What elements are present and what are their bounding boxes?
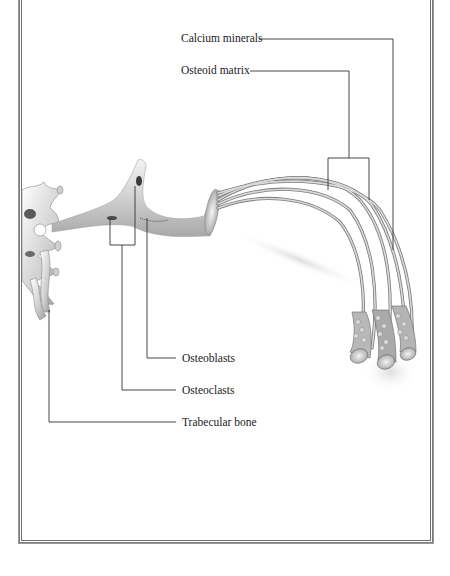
trabecular-bone-lattice bbox=[22, 182, 63, 320]
label-osteoclasts: Osteoclasts bbox=[182, 383, 234, 397]
leader-osteoclasts bbox=[122, 245, 176, 390]
leader-osteoid-matrix bbox=[250, 71, 349, 158]
leader-osteoblasts bbox=[147, 218, 176, 358]
label-osteoblasts: Osteoblasts bbox=[182, 351, 235, 365]
bone-illustration bbox=[0, 0, 450, 576]
label-trabecular-bone: Trabecular bone bbox=[182, 415, 257, 429]
leader-trabecular-bone bbox=[49, 310, 176, 422]
label-osteoid-matrix: Osteoid matrix bbox=[181, 63, 250, 77]
label-calcium-minerals: Calcium minerals bbox=[181, 31, 262, 45]
bone-shaft bbox=[52, 159, 222, 236]
